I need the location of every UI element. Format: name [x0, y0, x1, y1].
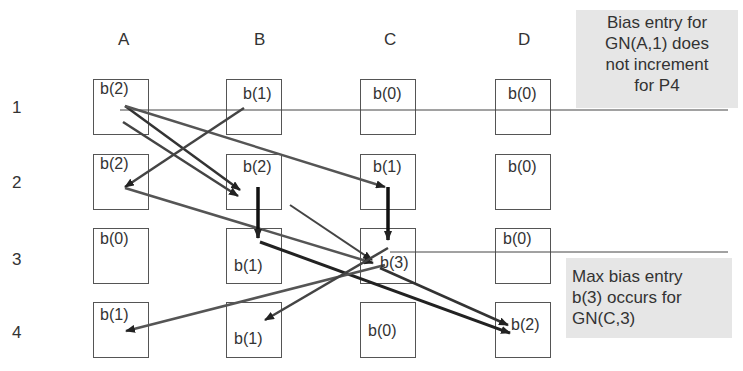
note-top-line-2: GN(A,1) does	[576, 33, 738, 54]
cell-c1-value: b(0)	[373, 85, 401, 103]
note-bottom-line-3: GN(C,3)	[572, 308, 732, 329]
cell-c3-value: b(3)	[380, 254, 408, 272]
cell-a1-value: b(2)	[100, 80, 128, 98]
note-bias-no-increment: Bias entry for GN(A,1) does not incremen…	[576, 10, 738, 108]
note-top-line-3: not increment	[576, 54, 738, 75]
cell-b3-value: b(1)	[234, 257, 262, 275]
cell-c4-value: b(0)	[368, 322, 396, 340]
cell-a4-value: b(1)	[100, 306, 128, 324]
note-bottom-line-1: Max bias entry	[572, 266, 732, 287]
cell-a3-value: b(0)	[100, 230, 128, 248]
cell-b4-value: b(1)	[234, 330, 262, 348]
cell-c2-value: b(1)	[373, 158, 401, 176]
note-bottom-line-2: b(3) occurs for	[572, 287, 732, 308]
cell-d1-value: b(0)	[508, 85, 536, 103]
note-top-line-4: for P4	[576, 75, 738, 96]
cell-d4-value: b(2)	[511, 316, 539, 334]
cell-b2-value: b(2)	[243, 158, 271, 176]
cell-a2-value: b(2)	[100, 155, 128, 173]
cell-d3-value: b(0)	[503, 230, 531, 248]
note-max-bias: Max bias entry b(3) occurs for GN(C,3)	[566, 258, 732, 338]
note-top-line-1: Bias entry for	[576, 12, 738, 33]
cell-d2-value: b(0)	[508, 158, 536, 176]
cell-b1-value: b(1)	[243, 85, 271, 103]
